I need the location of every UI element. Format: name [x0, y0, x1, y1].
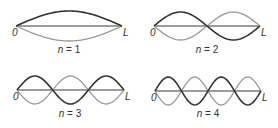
mode-label: n = 4 — [197, 108, 220, 119]
left-end-label: 0 — [150, 27, 156, 38]
wave-curve-light — [16, 26, 122, 41]
mode-panel-n4: 0Ln = 4 — [151, 77, 268, 119]
right-end-label: L — [123, 27, 129, 38]
right-end-label: L — [262, 92, 268, 103]
mode-panel-n1: 0Ln = 1 — [12, 11, 129, 55]
left-end-label: 0 — [151, 92, 157, 103]
mode-label: n = 1 — [58, 44, 81, 55]
right-end-label: L — [261, 27, 267, 38]
right-end-label: L — [125, 91, 131, 102]
left-end-label: 0 — [13, 91, 19, 102]
mode-panel-n2: 0Ln = 2 — [150, 12, 267, 55]
standing-waves-diagram: 0Ln = 10Ln = 20Ln = 30Ln = 4 — [0, 0, 278, 128]
mode-panel-n3: 0Ln = 3 — [13, 76, 131, 119]
mode-label: n = 2 — [196, 44, 219, 55]
left-end-label: 0 — [12, 27, 18, 38]
wave-curve-dark — [16, 11, 122, 26]
mode-label: n = 3 — [59, 108, 82, 119]
